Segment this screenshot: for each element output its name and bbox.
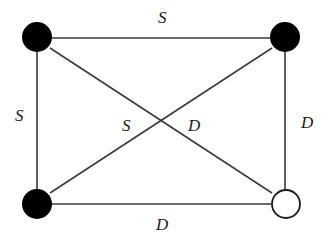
label-diagonal-d: D: [187, 116, 201, 135]
label-top-edge: S: [158, 8, 167, 27]
node-top-left: [22, 22, 52, 52]
node-bottom-right: [272, 190, 300, 218]
graph-diagram: S S S D D D: [0, 0, 330, 244]
label-bottom-edge: D: [155, 215, 169, 234]
label-right-edge: D: [300, 113, 314, 132]
node-top-right: [270, 22, 300, 52]
node-bottom-left: [22, 189, 52, 219]
label-diagonal-s: S: [122, 116, 131, 135]
label-left-edge: S: [15, 106, 24, 125]
